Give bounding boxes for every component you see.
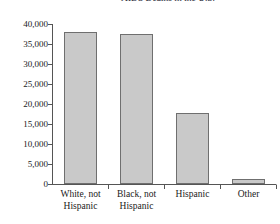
x-tick-line-1: Other [220, 189, 277, 201]
bar-black-not-hispanic [120, 34, 153, 184]
y-tick-label: 10,000 [2, 140, 48, 149]
y-tick-label: 30,000 [2, 60, 48, 69]
bar-other [232, 179, 265, 184]
y-tick-label: 0 [2, 180, 48, 189]
x-tick-label-black-not-hispanic: Black, not Hispanic [108, 189, 165, 212]
x-tick-label-hispanic: Hispanic [164, 189, 221, 201]
y-tick-label: 40,000 [2, 20, 48, 29]
y-axis-tick-labels: 0 5,000 10,000 15,000 20,000 25,000 30,0… [0, 0, 48, 224]
x-tick-line-1: Hispanic [164, 189, 221, 201]
plot-area: 0 5,000 10,000 15,000 20,000 25,000 30,0… [0, 0, 280, 224]
bar-chart-figure: AIDS Deaths in the U.S. 0 5,000 10,000 1… [0, 0, 280, 224]
y-tick-label: 5,000 [2, 160, 48, 169]
y-tick-label: 35,000 [2, 40, 48, 49]
x-tick-line-2: Hispanic [52, 201, 109, 213]
x-tick-line-1: Black, not [108, 189, 165, 201]
y-tick-label: 20,000 [2, 100, 48, 109]
bar-hispanic [176, 113, 209, 184]
x-tick-line-1: White, not [52, 189, 109, 201]
bar-white-not-hispanic [64, 32, 97, 184]
x-tick-label-white-not-hispanic: White, not Hispanic [52, 189, 109, 212]
y-tick-label: 25,000 [2, 80, 48, 89]
y-tick-label: 15,000 [2, 120, 48, 129]
x-tick-label-other: Other [220, 189, 277, 201]
x-tick-line-2: Hispanic [108, 201, 165, 213]
